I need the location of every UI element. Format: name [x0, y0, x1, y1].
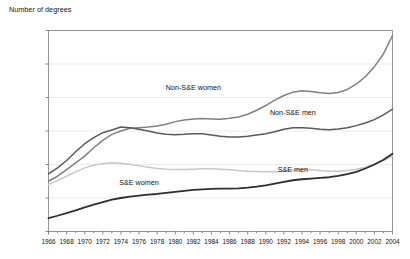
x-axis-tick-label: 1974 — [114, 238, 128, 245]
x-axis-tick-label: 1978 — [150, 238, 164, 245]
x-axis-tick-label: 1976 — [132, 238, 146, 245]
x-axis-tick-label: 1982 — [186, 238, 200, 245]
x-axis-tick-label: 1972 — [96, 238, 110, 245]
degrees-line-chart: Number of degrees 0100,000200,000300,000… — [0, 0, 410, 259]
series-line-s-e-men — [49, 156, 393, 185]
x-axis-tick-label: 1984 — [204, 238, 218, 245]
x-axis-tick-label: 1996 — [313, 238, 327, 245]
series-label-s-e-men: S&E men — [278, 165, 308, 174]
x-axis-tick-label: 1998 — [331, 238, 345, 245]
series-label-non-s-e-men: Non-S&E men — [270, 108, 316, 117]
x-axis-tick-label: 1994 — [295, 238, 309, 245]
x-axis-tick-label: 2002 — [367, 238, 381, 245]
x-axis-tick-label: 1966 — [41, 238, 55, 245]
x-axis-tick-label: 1980 — [168, 238, 182, 245]
plot-canvas — [0, 0, 410, 259]
x-axis-tick-label: 2004 — [385, 238, 399, 245]
series-line-non-s-e-women — [49, 36, 393, 182]
x-axis-tick-label: 1992 — [277, 238, 291, 245]
series-label-non-s-e-women: Non-S&E women — [166, 82, 221, 91]
x-axis-tick-label: 1970 — [78, 238, 92, 245]
x-axis-tick-label: 2000 — [349, 238, 363, 245]
x-axis-tick-label: 1988 — [241, 238, 255, 245]
x-axis-tick-label: 1968 — [59, 238, 73, 245]
series-label-s-e-women: S&E women — [119, 178, 159, 187]
x-axis-tick-label: 1990 — [259, 238, 273, 245]
x-axis-tick-label: 1986 — [222, 238, 236, 245]
